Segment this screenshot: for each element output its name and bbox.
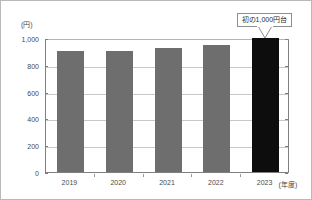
- y-axis-tick-label: 600: [9, 89, 39, 96]
- y-axis-tick-label: 1,000: [9, 36, 39, 43]
- x-axis-tick-mark: [240, 174, 241, 177]
- y-axis-tick-label: 0: [9, 170, 39, 177]
- annotation-callout-text: 初の1,000円台: [242, 16, 288, 23]
- y-axis-tick-label: 400: [9, 116, 39, 123]
- chart-figure: (円) 02004006008001,000 20192020202120222…: [0, 0, 312, 200]
- x-axis-tick-label: 2020: [110, 179, 126, 186]
- bar-2023: [252, 38, 279, 172]
- y-axis-unit-label: (円): [21, 19, 33, 29]
- x-axis-tick-label: 2021: [159, 179, 175, 186]
- bar-2022: [203, 45, 230, 172]
- x-axis-tick-mark: [94, 174, 95, 177]
- x-axis-tick-label: 2023: [257, 179, 273, 186]
- y-axis-tick-mark: [45, 173, 48, 174]
- bar-2021: [155, 48, 182, 172]
- x-axis-tick-label: 2019: [62, 179, 78, 186]
- annotation-pointer-icon: [254, 26, 276, 40]
- y-axis-tick-label: 800: [9, 62, 39, 69]
- bar-2020: [106, 51, 133, 172]
- x-axis-tick-label: 2022: [208, 179, 224, 186]
- x-axis-unit-label: (年度): [279, 179, 298, 189]
- x-axis-tick-mark: [143, 174, 144, 177]
- y-axis-tick-mark-right: [285, 173, 288, 174]
- annotation-callout: 初の1,000円台: [237, 13, 293, 27]
- y-axis-tick-label: 200: [9, 143, 39, 150]
- bar-2019: [57, 51, 84, 172]
- x-axis-tick-mark: [191, 174, 192, 177]
- plot-area: [45, 39, 289, 173]
